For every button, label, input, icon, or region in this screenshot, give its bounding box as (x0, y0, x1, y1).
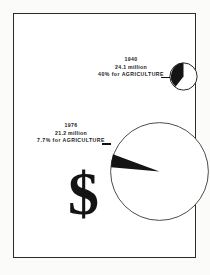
label-block-1940: 1940 24.1 million 40% for AGRICULTURE (92, 56, 170, 79)
label-1940-amount: 24.1 million (92, 64, 170, 72)
label-1940-percent: 40% for AGRICULTURE (92, 71, 170, 79)
label-1976-year: 1976 (32, 122, 110, 130)
pie-1940-svg (169, 62, 198, 91)
dollar-sign-icon: $ (68, 162, 98, 224)
figure-frame: 1940 24.1 million 40% for AGRICULTURE 19… (13, 13, 196, 258)
label-1940-year: 1940 (92, 56, 170, 64)
label-1976-percent: 7.7% for AGRICULTURE (32, 137, 110, 145)
label-1976-amount: 21.2 million (32, 130, 110, 138)
figure-canvas: 1940 24.1 million 40% for AGRICULTURE 19… (0, 0, 210, 275)
pie-chart-1976 (109, 121, 210, 222)
label-block-1976: 1976 21.2 million 7.7% for AGRICULTURE (32, 122, 110, 145)
pie-1976-svg (109, 121, 210, 222)
pie-chart-1940 (169, 62, 198, 91)
